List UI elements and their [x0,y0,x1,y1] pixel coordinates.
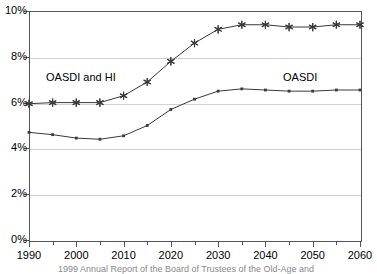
x-tick-mark-2025 [195,241,196,245]
y-tick-label-6: 6% [0,97,27,108]
x-tick-mark-2000 [76,241,77,247]
x-tick-mark-2020 [171,241,172,247]
x-tick-mark-2055 [336,241,337,245]
x-tick-mark-2040 [265,241,266,247]
plot-area [29,11,362,242]
x-tick-mark-2035 [242,241,243,245]
x-tick-label-2030: 2030 [198,249,238,261]
x-tick-mark-2010 [124,241,125,247]
x-tick-mark-2005 [100,241,101,245]
figure-caption: 1999 Annual Report of the Board of Trust… [0,264,372,274]
x-tick-label-2040: 2040 [245,249,285,261]
x-tick-mark-2030 [218,241,219,247]
x-tick-mark-1995 [53,241,54,245]
x-tick-mark-2060 [360,241,361,247]
x-tick-label-2010: 2010 [104,249,144,261]
y-tick-label-4: 4% [0,142,27,153]
x-tick-label-2060: 2060 [340,249,377,261]
y-tick-label-10: 10% [0,5,27,16]
x-tick-mark-2015 [147,241,148,245]
series-label-oasdi-and-hi: OASDI and HI [46,71,116,83]
gridline-y-2 [30,195,361,196]
y-tick-label-0: 0% [0,234,27,245]
x-tick-mark-2050 [313,241,314,247]
gridline-y-6 [30,104,361,105]
gridline-y-4 [30,149,361,150]
gridline-y-8 [30,58,361,59]
x-tick-label-2050: 2050 [293,249,333,261]
series-label-oasdi: OASDI [283,71,317,83]
y-tick-label-8: 8% [0,51,27,62]
x-tick-mark-1990 [29,241,30,247]
y-tick-label-2: 2% [0,188,27,199]
x-tick-label-1990: 1990 [9,249,49,261]
x-tick-label-2000: 2000 [56,249,96,261]
x-tick-mark-2045 [289,241,290,245]
x-tick-label-2020: 2020 [151,249,191,261]
